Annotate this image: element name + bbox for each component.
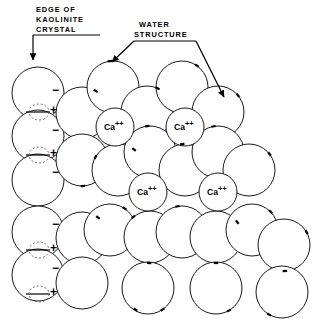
positive-charge-sign: + (50, 103, 57, 117)
dipole-marker (175, 206, 179, 207)
water-molecule-circle (256, 266, 308, 318)
kaolinite-water-structure-diagram: Ca++Ca++Ca++Ca++ −−−−−++++ EDGE OF KAOLI… (0, 0, 326, 328)
edge-callout-line3: CRYSTAL (36, 25, 76, 34)
water-callout-line1: WATER (139, 20, 170, 29)
dipole-marker (108, 61, 112, 62)
dipole-marker (211, 126, 215, 127)
calcium-ion: Ca++ (129, 173, 167, 211)
callout-edge-of-kaolinite-crystal: EDGE OF KAOLINITE CRYSTAL (33, 5, 100, 60)
water-callout-line2: STRUCTURE (134, 30, 188, 39)
water-molecule-circle (56, 257, 108, 309)
negative-charge-sign: − (52, 217, 59, 231)
positive-charge-sign: + (50, 146, 57, 160)
edge-callout-line2: KAOLINITE (36, 15, 84, 24)
calcium-ion: Ca++ (96, 108, 134, 146)
water-callout-left-leader-arrow (112, 41, 134, 62)
calcium-ion-charge: ++ (218, 184, 227, 193)
negative-charge-sign: − (52, 83, 59, 97)
calcium-ion-charge: ++ (115, 119, 124, 128)
positive-charge-sign: + (50, 285, 57, 299)
calcium-ion-charge: ++ (185, 119, 194, 128)
diagram-canvas: Ca++Ca++Ca++Ca++ −−−−−++++ EDGE OF KAOLI… (0, 0, 326, 328)
calcium-ion: Ca++ (166, 108, 204, 146)
water-molecule-circle (258, 219, 310, 271)
negative-charge-sign: − (52, 261, 59, 275)
calcium-ion-charge: ++ (148, 184, 157, 193)
negative-charge-sign: − (52, 123, 59, 137)
edge-callout-line1: EDGE OF (36, 5, 76, 14)
negative-charge-sign: − (52, 165, 59, 179)
water-molecule-circle (190, 262, 242, 314)
water-molecule-circle (122, 262, 174, 314)
positive-charge-sign: + (50, 241, 57, 255)
calcium-ion: Ca++ (199, 173, 237, 211)
